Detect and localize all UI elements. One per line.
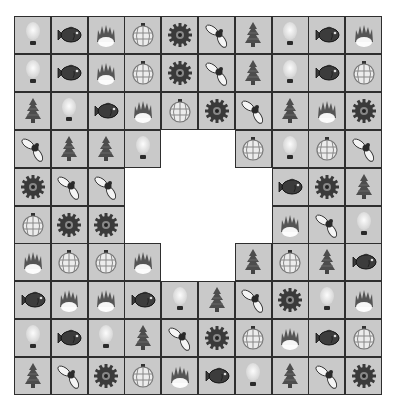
tile-fish[interactable] [88,92,125,130]
tile-tree[interactable] [235,16,272,54]
tile-fish[interactable] [51,16,88,54]
tile-gear[interactable] [51,206,88,244]
tile-fly[interactable] [198,16,235,54]
tile-tree[interactable] [235,243,272,281]
tile-gear[interactable] [308,168,345,206]
tile-fly[interactable] [235,281,272,319]
tile-bulb[interactable] [308,281,345,319]
tile-bulb[interactable] [14,319,51,357]
tile-fly[interactable] [308,357,345,395]
tile-fish[interactable] [14,281,51,319]
tile-fire[interactable] [345,281,382,319]
tile-lantern[interactable] [235,130,272,168]
tile-fish[interactable] [308,16,345,54]
tile-gear[interactable] [198,92,235,130]
tile-fly[interactable] [88,168,125,206]
tile-fly[interactable] [198,54,235,92]
tile-lantern[interactable] [124,54,161,92]
tile-fire[interactable] [88,16,125,54]
tile-bulb[interactable] [161,281,198,319]
tile-fire[interactable] [272,319,309,357]
tile-fire[interactable] [345,16,382,54]
tile-lantern[interactable] [51,243,88,281]
tile-fish[interactable] [345,243,382,281]
tile-tree[interactable] [308,243,345,281]
tile-tree[interactable] [51,130,88,168]
tile-lantern[interactable] [124,16,161,54]
tile-tree[interactable] [235,54,272,92]
tile-tree[interactable] [14,92,51,130]
tile-fish[interactable] [51,54,88,92]
tile-gear[interactable] [345,357,382,395]
tile-lantern[interactable] [272,243,309,281]
tile-fish[interactable] [124,281,161,319]
tile-bulb[interactable] [124,130,161,168]
tile-fire[interactable] [88,281,125,319]
tile-fire[interactable] [308,92,345,130]
tile-tree[interactable] [198,281,235,319]
tile-gear[interactable] [345,92,382,130]
tile-fire[interactable] [124,243,161,281]
tile-tree[interactable] [272,92,309,130]
fly-icon [202,20,232,50]
tile-tree[interactable] [345,168,382,206]
tile-fire[interactable] [272,206,309,244]
tile-lantern[interactable] [345,319,382,357]
fish-icon [54,58,84,88]
tile-lantern[interactable] [14,206,51,244]
tile-tree[interactable] [88,130,125,168]
fly-icon [54,172,84,202]
tile-bulb[interactable] [51,92,88,130]
tile-fish[interactable] [272,168,309,206]
tile-fly[interactable] [51,168,88,206]
fire-icon [54,285,84,315]
tile-bulb[interactable] [14,16,51,54]
tile-fly[interactable] [308,206,345,244]
tile-fly[interactable] [161,319,198,357]
tile-gear[interactable] [88,357,125,395]
fire-icon [349,20,379,50]
tile-gear[interactable] [161,16,198,54]
tile-gear[interactable] [161,54,198,92]
tile-fish[interactable] [308,319,345,357]
bulb-icon [275,20,305,50]
tile-gear[interactable] [198,319,235,357]
tree-icon [349,172,379,202]
tile-bulb[interactable] [272,54,309,92]
tile-lantern[interactable] [235,319,272,357]
tile-bulb[interactable] [345,206,382,244]
bulb-icon [128,134,158,164]
tile-lantern[interactable] [161,92,198,130]
tile-fly[interactable] [235,92,272,130]
tile-gear[interactable] [272,281,309,319]
tile-bulb[interactable] [235,357,272,395]
tile-fly[interactable] [345,130,382,168]
fire-icon [349,285,379,315]
tile-fire[interactable] [51,281,88,319]
tile-gear[interactable] [88,206,125,244]
fly-icon [238,285,268,315]
tile-bulb[interactable] [14,54,51,92]
tile-lantern[interactable] [124,357,161,395]
tile-lantern[interactable] [308,130,345,168]
fire-icon [18,247,48,277]
tile-fly[interactable] [14,130,51,168]
tile-fire[interactable] [161,357,198,395]
tile-fish[interactable] [308,54,345,92]
tile-tree[interactable] [124,319,161,357]
tile-bulb[interactable] [88,319,125,357]
tile-fire[interactable] [124,92,161,130]
tile-tree[interactable] [14,357,51,395]
tile-fish[interactable] [198,357,235,395]
tile-lantern[interactable] [88,243,125,281]
tile-fly[interactable] [51,357,88,395]
tile-lantern[interactable] [345,54,382,92]
tile-fire[interactable] [14,243,51,281]
tile-bulb[interactable] [272,130,309,168]
tile-tree[interactable] [272,357,309,395]
tile-gear[interactable] [14,168,51,206]
tile-bulb[interactable] [272,16,309,54]
lantern-icon [54,247,84,277]
tile-fire[interactable] [88,54,125,92]
tile-fish[interactable] [51,319,88,357]
